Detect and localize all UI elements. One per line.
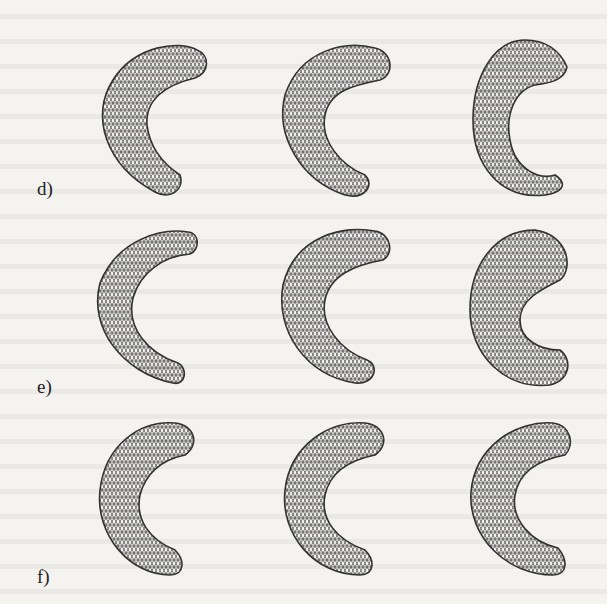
- mesh-f-2: [275, 420, 390, 580]
- mesh-f-1: [90, 420, 200, 580]
- mesh-e-1: [88, 228, 200, 388]
- mesh-d-1: [85, 40, 210, 200]
- mesh-d-3: [465, 35, 575, 200]
- row-label-f: f): [37, 566, 50, 588]
- mesh-f-3: [463, 420, 575, 580]
- row-label-d: d): [37, 178, 53, 200]
- row-label-e: e): [37, 376, 52, 398]
- mesh-e-3: [465, 225, 575, 390]
- mesh-d-2: [275, 40, 395, 200]
- mesh-e-2: [275, 225, 395, 390]
